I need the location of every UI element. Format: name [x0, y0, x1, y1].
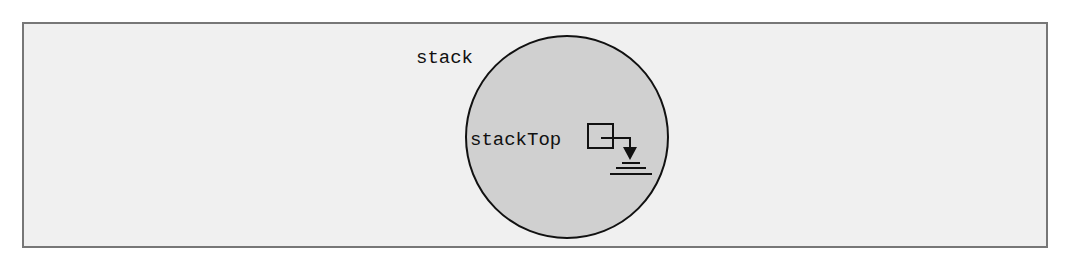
- stacktop-field-label: stackTop: [470, 129, 561, 151]
- stack-object-diagram: stack stackTop: [0, 0, 1075, 259]
- stack-label: stack: [416, 47, 473, 69]
